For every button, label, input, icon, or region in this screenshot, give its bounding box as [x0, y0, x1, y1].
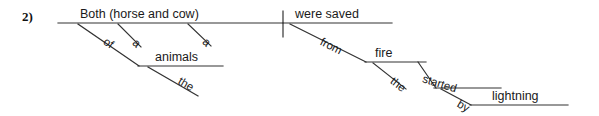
word-label-subject: Both (horse and cow) [80, 8, 199, 21]
word-label-fire: fire [375, 47, 392, 60]
sentence-diagram-canvas: 2) Both (horse and cow) animals were sav… [0, 0, 599, 116]
word-label-lightning: lightning [492, 90, 539, 103]
word-label-predicate: were saved [295, 8, 359, 21]
exercise-number: 2) [22, 9, 33, 25]
word-label-animals: animals [155, 51, 198, 64]
